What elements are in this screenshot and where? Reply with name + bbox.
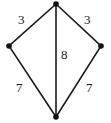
edge-label-top-right: 3 <box>84 13 91 26</box>
vertex-dot-bottom <box>53 114 59 120</box>
vertex-dot-top <box>53 1 59 7</box>
kite-diagram: 3 3 8 7 7 <box>0 0 111 123</box>
kite-shape-svg <box>0 0 111 123</box>
edge-label-bottom-left: 7 <box>16 81 23 94</box>
edge-label-top-left: 3 <box>18 13 25 26</box>
diagonal-label: 8 <box>61 48 68 61</box>
vertex-dot-right <box>98 43 104 49</box>
edge-label-bottom-right: 7 <box>86 81 93 94</box>
vertex-dot-left <box>6 43 12 49</box>
